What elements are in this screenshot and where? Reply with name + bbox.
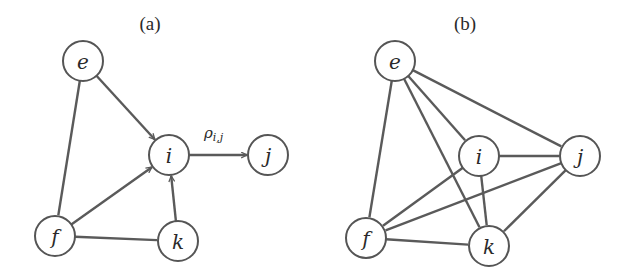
node-e: e	[375, 41, 415, 81]
edge-i-k	[481, 176, 486, 225]
panel-b-title: (b)	[454, 13, 476, 35]
edge-j-k	[504, 170, 566, 231]
edge-f-k	[75, 237, 157, 240]
edge-e-i	[408, 76, 465, 140]
graph-diagram: (a) eijfk ρi,j (b) eijfk	[0, 0, 630, 273]
panel-a-directed-graph: (a) eijfk ρi,j	[35, 13, 288, 261]
node-e: e	[63, 41, 103, 81]
edge-f-i	[71, 167, 152, 224]
node-j: j	[560, 136, 600, 176]
node-label: k	[483, 235, 495, 259]
edge-e-f	[58, 81, 80, 216]
node-f: f	[346, 218, 386, 258]
edge-f-k	[386, 239, 468, 244]
node-k: k	[469, 226, 509, 266]
node-label: k	[172, 230, 184, 254]
panel-a-nodes: eijfk	[35, 41, 288, 261]
edge-e-i	[97, 76, 155, 140]
node-k: k	[158, 221, 198, 261]
edge-e-j	[413, 70, 562, 146]
edge-k-i	[171, 176, 176, 221]
node-f: f	[35, 216, 75, 256]
edge-label-rho-i-j: ρi,j	[203, 124, 224, 144]
panel-b-undirected-graph: (b) eijfk	[346, 13, 600, 266]
node-label: e	[389, 50, 401, 74]
edge-e-f	[369, 81, 391, 218]
node-i: i	[459, 136, 499, 176]
node-j: j	[248, 135, 288, 175]
panel-a-title: (a)	[139, 13, 160, 35]
node-label: i	[476, 145, 482, 169]
node-i: i	[149, 135, 189, 175]
panel-b-nodes: eijfk	[346, 41, 600, 266]
node-label: e	[77, 50, 89, 74]
node-label: i	[166, 144, 172, 168]
